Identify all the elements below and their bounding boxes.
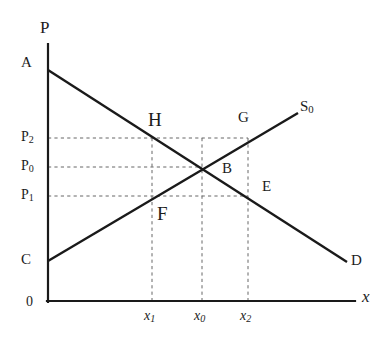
figure-canvas — [0, 0, 382, 341]
supply-curve — [48, 113, 298, 261]
y-axis-label: P — [40, 19, 49, 36]
point-label-c: C — [21, 252, 31, 267]
quantity-tick-x0: x0 — [194, 309, 205, 324]
price-tick-p2-sub: 2 — [29, 134, 34, 145]
x-axis-label: x — [362, 288, 370, 305]
curve-label-supply-sub: 0 — [308, 103, 313, 115]
quantity-tick-x0-sub: 0 — [200, 313, 205, 324]
price-tick-p2-base: P — [21, 129, 29, 144]
price-tick-p1-sub: 1 — [29, 192, 34, 203]
guide-lines — [48, 138, 248, 301]
quantity-tick-x2-sub: 2 — [246, 313, 251, 324]
price-tick-p2: P2 — [21, 130, 34, 145]
point-label-e: E — [262, 179, 271, 194]
origin-label: 0 — [26, 295, 33, 309]
point-label-b: B — [222, 161, 232, 176]
curve-label-supply: S0 — [300, 99, 314, 115]
point-label-d: D — [351, 253, 362, 268]
supply-demand-figure: P x 0 P2 P0 P1 x1 x0 x2 A C D S0 H G B E… — [0, 0, 382, 341]
quantity-tick-x1: x1 — [144, 309, 155, 324]
point-label-f: F — [157, 204, 168, 223]
price-tick-p0: P0 — [21, 159, 34, 174]
price-tick-p1: P1 — [21, 188, 34, 203]
axes — [47, 44, 355, 302]
quantity-tick-x1-sub: 1 — [150, 313, 155, 324]
price-tick-p0-base: P — [21, 158, 29, 173]
point-label-a: A — [21, 55, 32, 70]
price-tick-p0-sub: 0 — [29, 163, 34, 174]
quantity-tick-x2: x2 — [240, 309, 251, 324]
point-label-g: G — [238, 110, 249, 125]
price-tick-p1-base: P — [21, 187, 29, 202]
point-label-h: H — [148, 110, 162, 129]
